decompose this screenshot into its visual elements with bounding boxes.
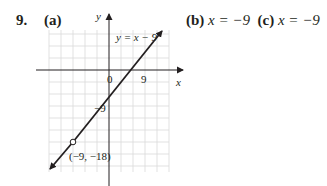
y-axis-label: y — [95, 10, 101, 22]
open-point-label: (−9, −18) — [69, 150, 111, 163]
open-point-icon — [70, 139, 76, 145]
coordinate-graph: x y 0 9 −9 y = x − 9 (−9, −18) — [0, 0, 327, 186]
origin-label: 0 — [107, 73, 113, 85]
line-y-equals-x-minus-9 — [73, 31, 162, 142]
x-axis-label: x — [175, 76, 181, 88]
x-intercept-label: 9 — [141, 73, 147, 85]
equation-label: y = x − 9 — [115, 31, 158, 43]
